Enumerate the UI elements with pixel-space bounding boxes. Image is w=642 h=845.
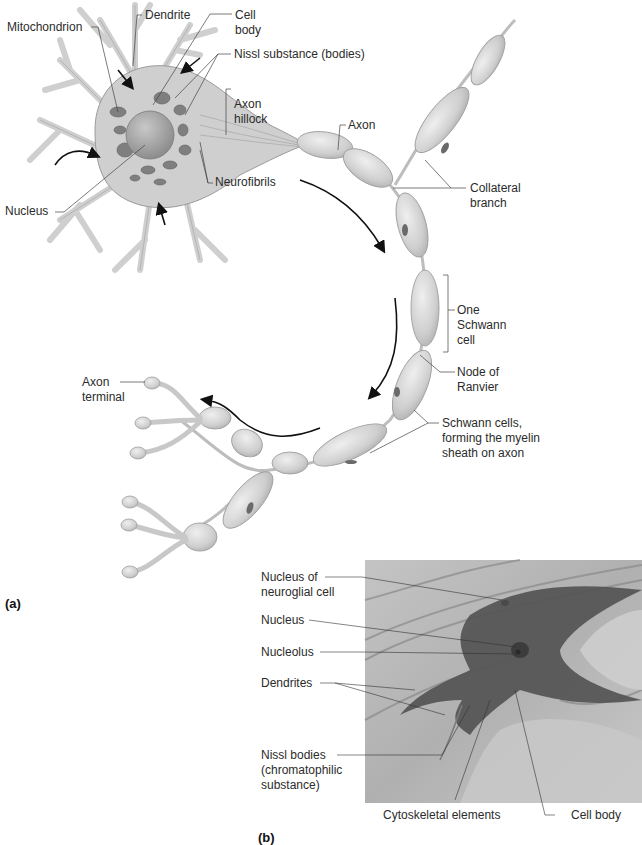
label-axon-terminal: Axon terminal — [82, 375, 125, 405]
panel-b-label: (b) — [258, 830, 275, 845]
label-collateral-branch: Collateral branch — [470, 181, 521, 211]
label-one-schwann-cell: One Schwann cell — [457, 303, 506, 348]
label-node-of-ranvier: Node of Ranvier — [457, 365, 499, 395]
label-axon: Axon — [348, 118, 375, 133]
label-nucleus: Nucleus — [5, 204, 48, 219]
label-dendrites: Dendrites — [261, 676, 312, 691]
label-neurofibrils: Neurofibrils — [215, 175, 276, 190]
label-cytoskeletal-elements: Cytoskeletal elements — [383, 808, 500, 823]
label-schwann-cells: Schwann cells, forming the myelin sheath… — [442, 416, 540, 461]
label-mitochondrion: Mitochondrion — [7, 20, 82, 35]
panel-a-label: (a) — [5, 596, 21, 611]
label-cell-body: Cell body — [235, 8, 261, 38]
label-micro-nucleus: Nucleus — [261, 613, 304, 628]
label-micro-cell-body: Cell body — [571, 808, 621, 823]
label-nucleolus: Nucleolus — [261, 645, 314, 660]
label-dendrite: Dendrite — [145, 8, 190, 23]
label-nissl-substance: Nissl substance (bodies) — [234, 47, 365, 62]
label-nucleus-of-neuroglial-cell: Nucleus of neuroglial cell — [261, 570, 334, 600]
label-axon-hillock: Axon hillock — [234, 97, 267, 127]
nucleus-shape — [126, 111, 174, 159]
micrograph — [365, 560, 642, 803]
label-nissl-bodies: Nissl bodies (chromatophilic substance) — [261, 748, 342, 793]
